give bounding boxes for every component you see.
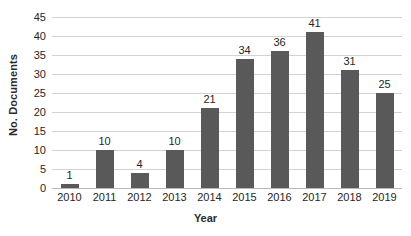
x-axis-tick-label: 2019 xyxy=(367,191,402,203)
bar-value-label: 4 xyxy=(136,159,142,170)
bar-slot: 41 xyxy=(297,17,332,188)
bar-slot: 4 xyxy=(122,17,157,188)
bar-chart: No. Documents 051015202530354045 1104102… xyxy=(0,0,411,236)
bar[interactable] xyxy=(376,93,394,188)
bar-value-label: 25 xyxy=(378,79,390,90)
x-axis-tick-label: 2012 xyxy=(122,191,157,203)
bar-slot: 31 xyxy=(332,17,367,188)
x-axis-tick-label: 2017 xyxy=(297,191,332,203)
y-axis-tick-label: 20 xyxy=(24,107,46,118)
bar-value-label: 36 xyxy=(273,37,285,48)
bar-slot: 34 xyxy=(227,17,262,188)
bar-value-label: 10 xyxy=(98,136,110,147)
bar-value-label: 34 xyxy=(238,45,250,56)
bar[interactable] xyxy=(236,59,254,188)
x-axis-tick-label: 2015 xyxy=(227,191,262,203)
bar-slot: 1 xyxy=(52,17,87,188)
bar[interactable] xyxy=(271,51,289,188)
y-axis-tick-label: 40 xyxy=(24,31,46,42)
bar-slot: 25 xyxy=(367,17,402,188)
y-axis-tick-label: 30 xyxy=(24,69,46,80)
bar[interactable] xyxy=(306,32,324,188)
bar-value-label: 41 xyxy=(308,18,320,29)
bar[interactable] xyxy=(341,70,359,188)
plot-area: 110410213436413125 xyxy=(52,17,402,188)
y-axis-tick-label: 35 xyxy=(24,50,46,61)
y-axis-tick-label: 25 xyxy=(24,88,46,99)
bar-slot: 10 xyxy=(87,17,122,188)
bar[interactable] xyxy=(96,150,114,188)
bar-value-label: 31 xyxy=(343,56,355,67)
bar[interactable] xyxy=(61,184,79,188)
y-axis-tick-label: 10 xyxy=(24,145,46,156)
bar-slot: 21 xyxy=(192,17,227,188)
x-axis-title: Year xyxy=(0,212,411,224)
y-axis-tick-label: 15 xyxy=(24,126,46,137)
y-axis-title: No. Documents xyxy=(6,0,20,190)
x-axis-tick-label: 2010 xyxy=(52,191,87,203)
x-axis-tick-label: 2016 xyxy=(262,191,297,203)
bar-value-label: 1 xyxy=(66,170,72,181)
bar[interactable] xyxy=(201,108,219,188)
bar-value-label: 21 xyxy=(203,94,215,105)
bar-slot: 36 xyxy=(262,17,297,188)
y-axis-tick-label: 0 xyxy=(24,183,46,194)
y-axis-tick-label: 5 xyxy=(24,164,46,175)
bar-value-label: 10 xyxy=(168,136,180,147)
x-axis-tick-label: 2011 xyxy=(87,191,122,203)
bar[interactable] xyxy=(166,150,184,188)
x-axis-tick-label: 2013 xyxy=(157,191,192,203)
bar-series: 110410213436413125 xyxy=(52,17,402,188)
bar-slot: 10 xyxy=(157,17,192,188)
gridline xyxy=(52,188,402,189)
x-axis-tick-label: 2014 xyxy=(192,191,227,203)
y-axis-tick-label: 45 xyxy=(24,12,46,23)
bar[interactable] xyxy=(131,173,149,188)
x-axis-tick-label: 2018 xyxy=(332,191,367,203)
